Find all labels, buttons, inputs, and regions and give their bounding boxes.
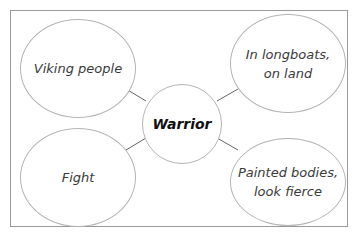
connector-top-right [217, 89, 238, 101]
node-in-longboats: In longboats, on land [230, 14, 346, 113]
node-label: In longboats, on land [246, 45, 330, 83]
node-label: Viking people [34, 59, 122, 78]
connector-bottom-right [217, 138, 238, 150]
connector-bottom-left [126, 138, 146, 150]
node-fight: Fight [20, 128, 136, 227]
node-label: Fight [62, 168, 95, 187]
center-label: Warrior [152, 115, 211, 134]
node-label: Painted bodies, look fierce [238, 163, 338, 201]
center-node-warrior: Warrior [142, 84, 222, 164]
node-viking-people: Viking people [20, 19, 136, 118]
node-painted-bodies: Painted bodies, look fierce [230, 138, 346, 226]
